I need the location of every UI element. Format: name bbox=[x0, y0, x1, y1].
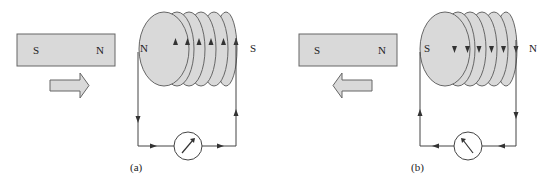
caption-a: (a) bbox=[130, 161, 143, 174]
magnet-a-south-label: S bbox=[33, 44, 39, 56]
coil-a-north-label: N bbox=[140, 42, 148, 54]
galvanometer-a bbox=[174, 132, 202, 160]
magnet-a-north-label: N bbox=[96, 44, 104, 56]
motion-arrow-right-icon bbox=[50, 73, 89, 98]
induction-figure: S N N S bbox=[0, 0, 552, 185]
coil-b: S N bbox=[420, 12, 537, 86]
coil-b-north-label: N bbox=[529, 42, 537, 54]
motion-arrow-left-icon bbox=[333, 73, 372, 98]
caption-b: (b) bbox=[411, 161, 424, 174]
bar-magnet-b: S N bbox=[299, 34, 397, 66]
coil-a-south-label: S bbox=[250, 42, 256, 54]
panel-a: S N N S bbox=[17, 12, 256, 174]
galvanometer-b bbox=[454, 132, 482, 160]
magnet-b-south-label: S bbox=[314, 44, 320, 56]
magnet-b-north-label: N bbox=[378, 44, 386, 56]
bar-magnet-a: S N bbox=[17, 34, 115, 66]
coil-a: N S bbox=[139, 12, 256, 86]
panel-b: S N S N bbox=[299, 12, 537, 174]
coil-b-south-label: S bbox=[424, 42, 430, 54]
